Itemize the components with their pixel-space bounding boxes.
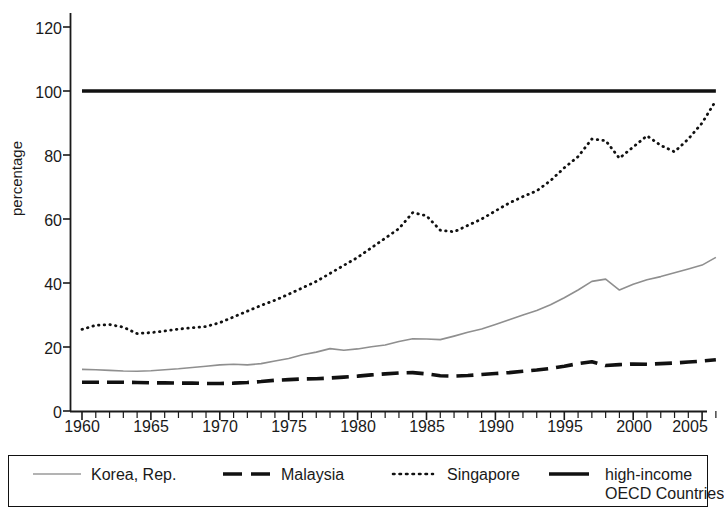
x-tick-1985: 1985	[399, 419, 455, 435]
thick-dashed-line-icon	[221, 467, 273, 481]
x-tick-1970: 1970	[192, 419, 248, 435]
x-tick-2000: 2000	[606, 419, 662, 435]
y-tick-20: 20	[28, 341, 62, 357]
legend-label-malaysia: Malaysia	[281, 465, 344, 484]
legend-entry-malaysia: Malaysia	[221, 465, 344, 484]
y-tick-60: 60	[28, 213, 62, 229]
x-tick-1960: 1960	[54, 419, 110, 435]
legend-label-singapore: Singapore	[447, 465, 520, 484]
y-axis-title: percentage	[8, 119, 25, 239]
x-tick-1965: 1965	[123, 419, 179, 435]
data-series-group	[82, 91, 716, 383]
x-tick-2005: 2005	[662, 419, 718, 435]
series-line-singapore	[82, 101, 716, 334]
chart-canvas	[0, 0, 720, 448]
y-tick-100: 100	[28, 85, 62, 101]
thin-solid-gray-line-icon	[31, 467, 83, 481]
axis-lines	[70, 13, 707, 412]
series-line-korea-rep	[82, 257, 716, 371]
dotted-line-icon	[387, 467, 439, 481]
y-tick-80: 80	[28, 149, 62, 165]
x-tick-1995: 1995	[537, 419, 593, 435]
x-tick-1990: 1990	[468, 419, 524, 435]
legend-entry-korea: Korea, Rep.	[31, 465, 176, 484]
legend-label-korea: Korea, Rep.	[91, 465, 176, 484]
thick-solid-line-icon	[545, 467, 597, 481]
plot-area: percentage 0 20 40 60 80 100 120 1960 19…	[0, 0, 720, 448]
legend-entry-oecd: high-income OECD Countries	[545, 465, 724, 503]
legend-entry-singapore: Singapore	[387, 465, 520, 484]
y-tick-40: 40	[28, 277, 62, 293]
series-line-malaysia	[82, 360, 716, 384]
legend-label-oecd: high-income OECD Countries	[605, 465, 724, 503]
x-tick-1980: 1980	[330, 419, 386, 435]
y-axis-tick-labels: 0 20 40 60 80 100 120	[24, 0, 62, 448]
chart-legend: Korea, Rep. Malaysia Singapore h	[8, 455, 708, 507]
y-tick-120: 120	[28, 21, 62, 37]
x-tick-1975: 1975	[261, 419, 317, 435]
